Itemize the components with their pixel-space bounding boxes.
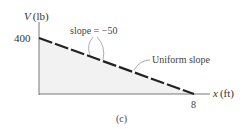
- slope-annotation: slope = −50: [70, 25, 117, 36]
- y-axis-label: V(lb): [24, 10, 49, 23]
- y-tick-400: 400: [14, 32, 31, 44]
- uniform-slope-annotation: Uniform slope: [152, 54, 211, 65]
- figure-caption: (c): [116, 113, 127, 125]
- x-tick-8: 8: [191, 99, 196, 110]
- slope-leader-arc-right: [97, 37, 104, 60]
- x-axis-label: x(ft): [212, 87, 234, 100]
- shear-diagram: V(lb) 400 slope = −50 Uniform slope x(ft…: [0, 0, 244, 129]
- slope-leader-arc-left: [89, 37, 93, 55]
- uniform-slope-leader: [134, 60, 150, 70]
